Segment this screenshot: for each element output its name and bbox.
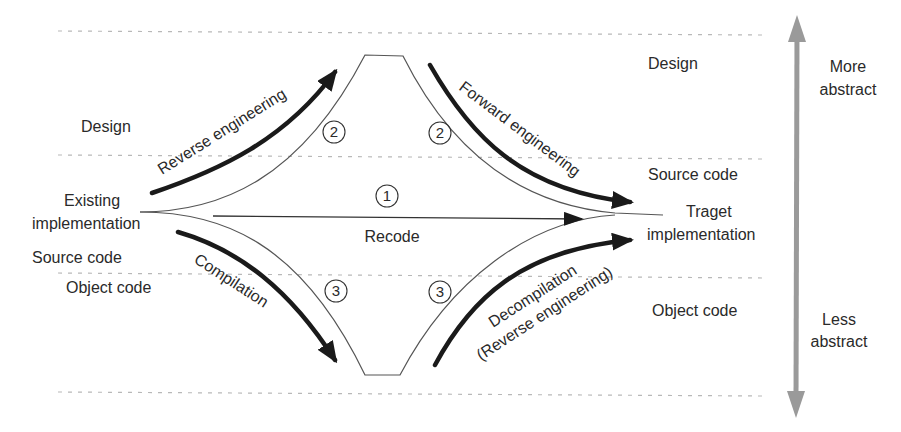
right-label-source-code: Source code bbox=[648, 166, 738, 183]
recode-arrow bbox=[213, 216, 582, 219]
marker-upper-right-number: 2 bbox=[436, 124, 444, 141]
abstraction-axis bbox=[787, 15, 806, 418]
right-label-implementation: implementation bbox=[647, 226, 756, 243]
process-outline bbox=[140, 55, 663, 375]
left-label-existing: Existing bbox=[64, 192, 120, 209]
marker-recode-number: 1 bbox=[383, 187, 391, 204]
arrow-up-icon bbox=[788, 15, 806, 42]
path-arrows bbox=[152, 65, 630, 365]
arrow-down-icon bbox=[787, 391, 805, 418]
left-label-object-code: Object code bbox=[66, 279, 151, 296]
label-compilation: Compilation bbox=[191, 250, 271, 310]
label-recode: Recode bbox=[364, 228, 419, 245]
axis-label-less-abstract: abstract bbox=[811, 333, 868, 350]
axis-label-more-abstract: abstract bbox=[820, 81, 877, 98]
right-label-object-code: Object code bbox=[652, 302, 737, 319]
marker-lower-right-number: 3 bbox=[436, 283, 444, 300]
left-label-implementation: implementation bbox=[32, 215, 141, 232]
axis-label-less: Less bbox=[822, 311, 856, 328]
separator-source-object bbox=[58, 273, 762, 278]
reengineering-diagram: 2 2 1 3 3 Design Existing implementation… bbox=[0, 0, 901, 432]
separator-top bbox=[58, 31, 762, 35]
marker-upper-left-number: 2 bbox=[330, 123, 338, 140]
abstraction-axis-line bbox=[796, 30, 797, 402]
left-label-design: Design bbox=[81, 118, 131, 135]
right-label-design: Design bbox=[648, 55, 698, 72]
axis-label-more: More bbox=[830, 58, 867, 75]
separator-bottom bbox=[58, 392, 762, 396]
reverse-engineering-arrow bbox=[152, 72, 335, 193]
marker-lower-left-number: 3 bbox=[332, 282, 340, 299]
right-label-target: Traget bbox=[686, 203, 732, 220]
left-label-source-code: Source code bbox=[32, 249, 122, 266]
